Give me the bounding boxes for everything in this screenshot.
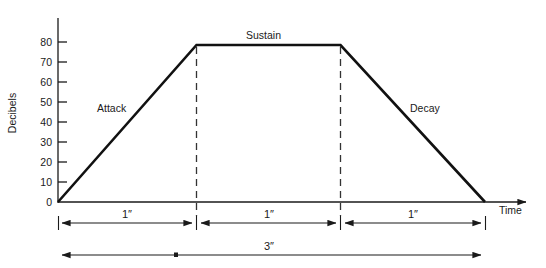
y-axis-title: Decibels (6, 93, 18, 133)
phase-boundary-markers (197, 47, 341, 216)
y-axis-ticks (58, 42, 67, 182)
ytick-label-10: 10 (40, 176, 52, 188)
ytick-label-40: 40 (40, 116, 52, 128)
dimension-label-3: 1″ (408, 208, 418, 220)
ytick-label-70: 70 (40, 56, 52, 68)
sustain-label: Sustain (246, 29, 281, 41)
ytick-label-20: 20 (40, 156, 52, 168)
x-axis-title: Time (499, 204, 522, 216)
decay-label: Decay (410, 102, 441, 114)
segment-dimension-row: 1″ 1″ 1″ (59, 208, 486, 230)
total-dimension-row: 3″ (62, 240, 481, 257)
ytick-label-30: 30 (40, 136, 52, 148)
attack-label: Attack (97, 102, 127, 114)
dimension-label-1: 1″ (122, 208, 132, 220)
envelope-curve (58, 45, 485, 202)
dimension-midpoint-dot (174, 253, 178, 258)
ytick-label-60: 60 (40, 76, 52, 88)
ytick-label-0: 0 (46, 196, 52, 208)
dimension-label-total: 3″ (264, 240, 274, 252)
ytick-label-50: 50 (40, 96, 52, 108)
y-axis: 80 70 60 50 40 30 20 10 0 Decibels (6, 18, 67, 208)
dimension-label-2: 1″ (264, 208, 274, 220)
sound-envelope-figure: 80 70 60 50 40 30 20 10 0 Decibels Time (0, 0, 546, 268)
y-axis-tick-labels: 80 70 60 50 40 30 20 10 0 (40, 36, 52, 208)
ytick-label-80: 80 (40, 36, 52, 48)
